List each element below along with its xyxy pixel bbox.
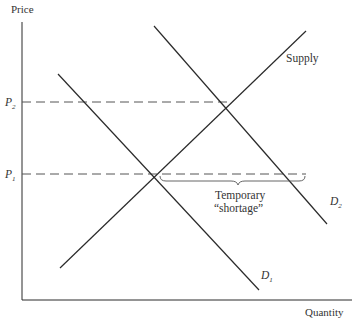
y-axis-label: Price — [11, 3, 34, 15]
supply-curve — [60, 31, 306, 268]
demand-d1-curve — [58, 74, 259, 290]
shortage-brace — [160, 176, 305, 185]
x-axis-label: Quantity — [305, 306, 344, 318]
d2-label: D2 — [329, 195, 342, 210]
p1-label: P1 — [4, 168, 16, 183]
p2-label: P2 — [4, 96, 16, 111]
shortage-label-line2: “shortage” — [214, 202, 263, 215]
d1-label: D1 — [260, 269, 273, 284]
shortage-label-line1: Temporary — [215, 189, 266, 202]
supply-demand-diagram: Price Quantity P2 P1 Supply D1 D2 Tempor… — [0, 0, 360, 323]
supply-label: Supply — [286, 52, 319, 65]
